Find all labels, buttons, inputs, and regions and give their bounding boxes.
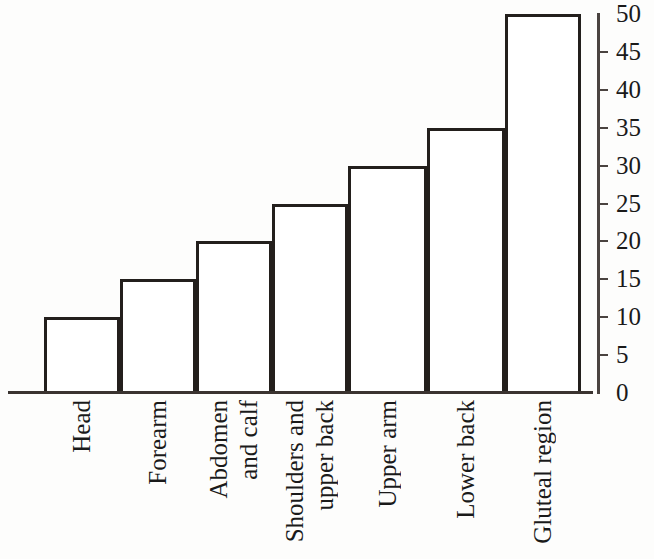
- x-axis-category-label: Abdomenand calf: [204, 400, 264, 559]
- y-axis-tick: [597, 278, 608, 280]
- y-axis-tick: [597, 240, 608, 242]
- y-axis-tick: [597, 51, 608, 53]
- y-axis-tick-label: 5: [616, 342, 629, 367]
- x-axis-line: [8, 391, 593, 394]
- y-axis-tick: [597, 13, 600, 15]
- y-axis-tick: [597, 392, 600, 394]
- y-axis-tick: [597, 203, 608, 205]
- y-axis-tick-label: 10: [616, 304, 641, 329]
- y-axis-tick-label: 25: [616, 191, 641, 216]
- bar: [505, 14, 581, 393]
- bar: [348, 166, 427, 393]
- y-axis-tick-label: 40: [616, 77, 641, 102]
- bar: [427, 128, 505, 393]
- x-axis-category-labels: HeadForearmAbdomenand calfShoulders andu…: [0, 400, 654, 559]
- y-axis-tick-label: 15: [616, 266, 641, 291]
- x-axis-category-label: Lower back: [451, 400, 481, 559]
- category-label-line: and calf: [234, 400, 264, 486]
- x-axis-category-label: Upper arm: [373, 400, 403, 559]
- bar-chart: 05101520253035404550 HeadForearmAbdomena…: [0, 0, 654, 559]
- y-axis-tick: [597, 354, 608, 356]
- y-axis-tick: [597, 89, 608, 91]
- x-axis-category-label: Shoulders andupper back: [280, 400, 340, 559]
- bar: [120, 279, 196, 393]
- x-axis-category-label: Forearm: [143, 400, 173, 559]
- category-label-line: Abdomen: [204, 400, 234, 505]
- y-axis-tick-label: 45: [616, 39, 641, 64]
- plot-area: [0, 0, 654, 400]
- category-label-line: Upper arm: [373, 400, 403, 514]
- bar: [44, 317, 120, 393]
- y-axis-tick-label: 50: [616, 1, 641, 26]
- x-axis-category-label: Gluteal region: [528, 400, 558, 559]
- bar: [272, 204, 348, 394]
- y-axis-tick-label: 35: [616, 115, 641, 140]
- x-axis-category-label: Head: [67, 400, 97, 559]
- category-label-line: Shoulders and: [280, 400, 310, 548]
- category-label-line: Gluteal region: [528, 400, 558, 550]
- category-label-line: Lower back: [451, 400, 481, 525]
- category-label-line: upper back: [310, 400, 340, 516]
- y-axis-tick: [597, 165, 608, 167]
- y-axis-tick: [597, 316, 608, 318]
- bar: [196, 241, 272, 393]
- category-label-line: Head: [67, 400, 97, 459]
- y-axis-tick-label: 30: [616, 153, 641, 178]
- y-axis-tick-label: 20: [616, 228, 641, 253]
- y-axis-tick: [597, 127, 608, 129]
- category-label-line: Forearm: [143, 400, 173, 491]
